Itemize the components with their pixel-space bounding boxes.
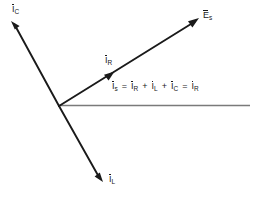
symbol-subscript: C bbox=[15, 8, 20, 15]
overbar-rule bbox=[12, 4, 14, 5]
arrowhead-il bbox=[95, 173, 103, 182]
overbar-rule bbox=[112, 81, 114, 82]
overbar-rule bbox=[105, 55, 107, 56]
arrowhead-ic bbox=[11, 21, 20, 30]
overbar-rule bbox=[109, 174, 111, 175]
equation-operator: + bbox=[160, 82, 168, 91]
symbol-subscript: L bbox=[154, 85, 158, 92]
overbar-rule bbox=[192, 81, 194, 82]
vector-line-il bbox=[59, 106, 100, 178]
symbol-subscript: R bbox=[194, 85, 199, 92]
current-sum-equation: Is = IR + IL + IC = IR bbox=[112, 81, 199, 91]
arrowhead-ir bbox=[104, 72, 115, 81]
phasor-diagram: IC Es IL IR Is = IR + IL + IC = IR bbox=[0, 0, 263, 201]
symbol-subscript: C bbox=[174, 85, 179, 92]
symbol-subscript: R bbox=[108, 59, 113, 66]
equation-operator: = bbox=[181, 82, 189, 91]
symbol-subscript: R bbox=[134, 85, 139, 92]
overbar-rule bbox=[171, 81, 173, 82]
vector-line-ic bbox=[15, 25, 60, 107]
overbar-rule bbox=[131, 81, 133, 82]
symbol-subscript: s bbox=[209, 14, 212, 21]
vector-label-es: Es bbox=[203, 10, 212, 20]
symbol-subscript: L bbox=[112, 178, 116, 185]
vector-label-il: IL bbox=[109, 174, 115, 184]
vector-label-ir: IR bbox=[105, 55, 112, 65]
equation-operator: = bbox=[120, 82, 128, 91]
overbar-rule bbox=[152, 81, 154, 82]
vector-label-ic: IC bbox=[12, 4, 19, 14]
overbar-rule bbox=[203, 10, 208, 11]
phasor-diagram-canvas bbox=[0, 0, 263, 201]
vector-line-es bbox=[59, 22, 195, 107]
arrowhead-es bbox=[188, 18, 199, 28]
symbol-subscript: s bbox=[115, 85, 118, 92]
equation-operator: + bbox=[141, 82, 149, 91]
